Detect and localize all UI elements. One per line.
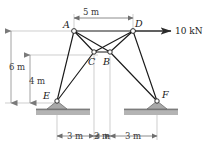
joint-E bbox=[55, 99, 59, 103]
truss-diagram-canvas: A D C B E F 5 m 6 m 4 m 3 m 2 m 3 m 10 k… bbox=[0, 0, 210, 150]
node-label-F: F bbox=[161, 89, 169, 100]
truss-diagram-figure: A D C B E F 5 m 6 m 4 m 3 m 2 m 3 m 10 k… bbox=[0, 0, 210, 150]
node-label-B: B bbox=[102, 56, 110, 67]
load-label: 10 kN bbox=[175, 26, 203, 36]
joint-C bbox=[92, 50, 96, 54]
member-B-F bbox=[110, 52, 157, 101]
node-label-D: D bbox=[134, 18, 143, 29]
joint-D bbox=[131, 29, 136, 34]
dimension-label-bottom-1: 3 m bbox=[67, 131, 83, 141]
dimension-label-6m: 6 m bbox=[9, 62, 25, 72]
ground-bar-right bbox=[124, 110, 178, 115]
ground-bar-left bbox=[36, 110, 90, 115]
member-D-F bbox=[133, 31, 157, 101]
member-A-B bbox=[74, 31, 110, 52]
node-label-C: C bbox=[88, 56, 96, 67]
node-label-A: A bbox=[62, 19, 70, 30]
dimension-label-4m: 4 m bbox=[29, 76, 45, 86]
dimension-label-5m: 5 m bbox=[83, 7, 99, 17]
node-label-E: E bbox=[42, 90, 50, 101]
dimension-label-bottom-2: 2 m bbox=[94, 131, 110, 141]
dimension-label-bottom-3: 3 m bbox=[125, 131, 141, 141]
joint-B bbox=[108, 50, 112, 54]
joint-F bbox=[155, 99, 159, 103]
joint-A bbox=[72, 29, 77, 34]
